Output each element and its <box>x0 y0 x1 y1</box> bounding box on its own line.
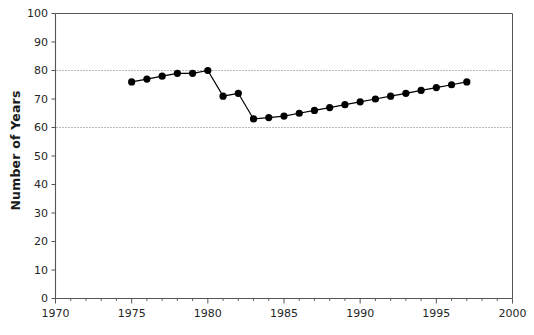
x-tick-label: 1995 <box>414 308 458 319</box>
x-tick-label: 1990 <box>338 308 382 319</box>
axis-frame <box>56 14 513 299</box>
y-tick-label: 40 <box>18 179 48 190</box>
data-point <box>159 73 166 80</box>
x-tick-label: 1975 <box>110 308 154 319</box>
data-point <box>433 84 440 91</box>
data-point <box>250 115 257 122</box>
chart-figure: Number of Years 010203040506070809010019… <box>0 0 534 335</box>
y-tick-label: 10 <box>18 265 48 276</box>
y-tick-label: 50 <box>18 151 48 162</box>
data-point <box>372 95 379 102</box>
y-tick-label: 100 <box>18 8 48 19</box>
y-tick-label: 30 <box>18 208 48 219</box>
data-point <box>204 67 211 74</box>
y-tick-label: 20 <box>18 236 48 247</box>
x-tick-label: 1980 <box>186 308 230 319</box>
data-point <box>448 81 455 88</box>
y-axis-ticks <box>52 14 56 299</box>
data-point <box>143 75 150 82</box>
y-tick-label: 70 <box>18 94 48 105</box>
data-point <box>357 98 364 105</box>
data-point <box>174 70 181 77</box>
data-point <box>387 93 394 100</box>
data-point <box>311 107 318 114</box>
plot-area <box>0 0 534 335</box>
data-point <box>418 87 425 94</box>
data-point <box>341 101 348 108</box>
y-tick-label: 0 <box>18 293 48 304</box>
data-point <box>402 90 409 97</box>
x-axis-ticks <box>56 299 513 304</box>
x-tick-label: 2000 <box>491 308 534 319</box>
data-point <box>326 104 333 111</box>
data-point <box>219 93 226 100</box>
y-tick-label: 80 <box>18 65 48 76</box>
data-point <box>189 70 196 77</box>
y-tick-label: 90 <box>18 37 48 48</box>
y-tick-label: 60 <box>18 122 48 133</box>
x-tick-label: 1985 <box>262 308 306 319</box>
data-point <box>265 114 272 121</box>
data-point <box>235 90 242 97</box>
data-point <box>128 78 135 85</box>
data-point <box>463 78 470 85</box>
data-point <box>296 110 303 117</box>
data-series <box>128 67 470 123</box>
x-tick-label: 1970 <box>34 308 78 319</box>
data-point <box>280 113 287 120</box>
